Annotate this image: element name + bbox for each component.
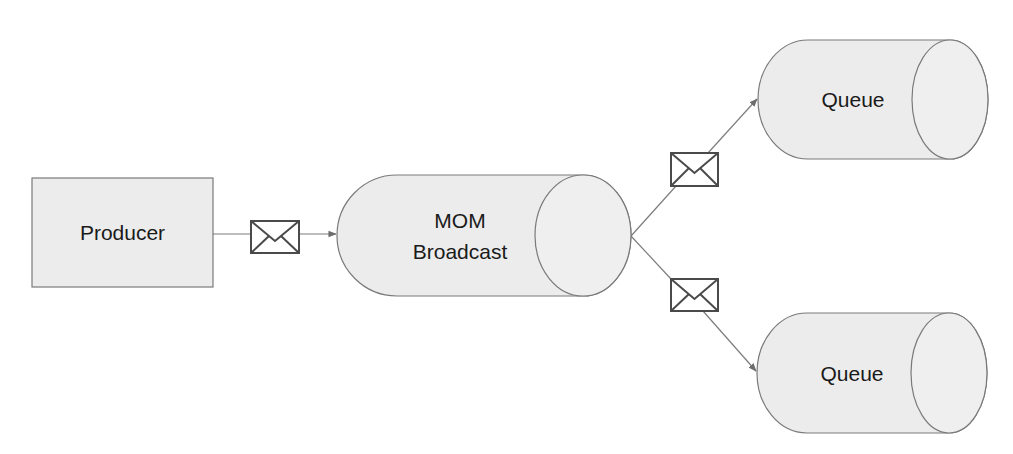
broadcast-node[interactable]: MOM Broadcast <box>337 175 631 296</box>
edge-broadcast-to-queue-top-arrow <box>708 99 757 153</box>
queue-top-label: Queue <box>821 88 884 111</box>
producer-label: Producer <box>80 221 165 244</box>
broadcast-label-line1: MOM <box>434 209 485 232</box>
envelope-icon <box>671 153 718 186</box>
edge-broadcast-to-queue-bottom <box>631 236 671 279</box>
queue-bottom-label: Queue <box>820 362 883 385</box>
queue-top-node[interactable]: Queue <box>758 40 988 159</box>
messaging-diagram: Producer MOM Broadcast Queue Queue <box>0 0 1013 454</box>
broadcast-label-line2: Broadcast <box>413 240 508 263</box>
edge-broadcast-to-queue-top <box>631 186 676 236</box>
queue-bottom-node[interactable]: Queue <box>757 313 987 433</box>
envelope-icon <box>671 279 718 311</box>
envelope-icon <box>251 221 299 253</box>
producer-node[interactable]: Producer <box>32 178 213 287</box>
edge-broadcast-to-queue-bottom-arrow <box>703 311 756 371</box>
